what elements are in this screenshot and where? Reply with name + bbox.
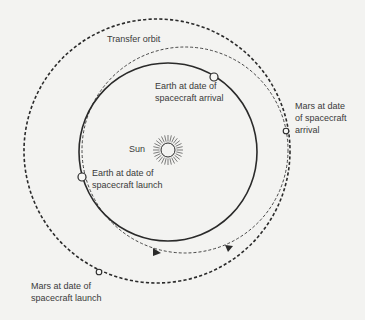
sun-ray xyxy=(170,135,171,141)
sun-ray xyxy=(170,158,171,164)
transfer-orbit-label: Transfer orbit xyxy=(107,33,160,45)
mars-launch-label: Mars at date of spacecraft launch xyxy=(31,280,102,304)
sun-ray xyxy=(154,143,160,146)
sun-ray xyxy=(173,138,177,143)
diagram-canvas xyxy=(0,0,365,320)
sun-ray xyxy=(172,158,175,164)
sun-ray xyxy=(161,136,164,142)
sun-label: Sun xyxy=(129,143,145,155)
sun-ray xyxy=(154,154,160,157)
sun-icon xyxy=(153,135,183,165)
sun-ray xyxy=(172,136,175,142)
sun-ray xyxy=(176,147,182,148)
sun-ray xyxy=(176,152,182,153)
mars-orbit xyxy=(24,19,290,283)
mars-arrival-label: Mars at date of spacecraft arrival xyxy=(295,100,347,136)
sun-ray xyxy=(175,155,180,159)
sun-ray xyxy=(159,138,163,143)
mars-arrival-marker xyxy=(283,128,289,134)
orbit-diagram: Transfer orbit Sun Earth at date of spac… xyxy=(0,0,365,320)
sun-ray xyxy=(165,135,166,141)
mars-launch-marker xyxy=(96,269,102,275)
earth-launch-marker xyxy=(78,173,86,181)
sun-ray xyxy=(165,158,166,164)
direction-arrow xyxy=(225,245,233,252)
sun-ray xyxy=(159,157,163,162)
sun-ray xyxy=(175,141,180,145)
sun-ray xyxy=(156,141,161,145)
sun-ray xyxy=(176,143,182,146)
sun-ray xyxy=(153,152,159,153)
earth-launch-label: Earth at date of spacecraft launch xyxy=(92,167,163,191)
sun-ray xyxy=(153,147,159,148)
sun-ray xyxy=(161,158,164,164)
sun-ray xyxy=(173,157,177,162)
sun-ray xyxy=(156,155,161,159)
sun-ray xyxy=(176,154,182,157)
earth-arrival-label: Earth at date of spacecraft arrival xyxy=(155,80,224,104)
